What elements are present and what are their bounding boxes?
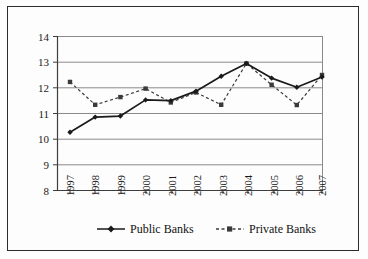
y-tick-label: 14 [38,31,50,43]
y-tick-label: 9 [44,159,50,171]
square-marker-icon [227,226,232,231]
data-point-marker [68,80,72,84]
x-tick-label: 2003 [218,175,229,196]
gridlines [57,37,323,165]
y-tick-label: 13 [38,56,50,68]
y-tick-label: 8 [44,185,50,197]
x-tick-label: 2006 [294,175,305,196]
data-point-marker [294,85,299,90]
series-public-banks [67,61,324,135]
line-chart: 14 13 12 11 10 9 8 [0,0,368,259]
data-point-marker [295,103,299,107]
x-axis-labels: 1997 1998 1999 2000 2001 2002 2003 2004 … [65,174,328,196]
legend-item-private-banks: Private Banks [216,222,316,236]
data-point-marker [143,86,147,90]
x-tick-label: 1998 [90,175,101,196]
legend-label-public-banks: Public Banks [130,222,194,236]
chart-legend: Public Banks Private Banks [97,222,316,236]
series-private-banks [68,61,324,107]
legend-item-public-banks: Public Banks [97,222,194,236]
x-tick-label: 2002 [192,175,203,196]
x-tick-label: 2004 [243,174,254,196]
series-line [70,63,322,132]
data-point-marker [93,103,97,107]
x-tick-label: 2000 [141,175,152,196]
data-point-marker [269,83,273,87]
x-tick-label: 2001 [167,175,178,196]
data-point-marker [118,95,122,99]
diamond-marker-icon [108,226,115,233]
x-tick-label: 1999 [116,175,127,196]
x-tick-label: 2007 [317,175,328,196]
y-tick-marks [53,37,57,191]
legend-label-private-banks: Private Banks [249,222,316,236]
data-point-marker [219,103,223,107]
y-tick-label: 12 [38,82,49,94]
x-tick-label: 2005 [269,175,280,196]
series-line [70,63,322,105]
figure-container: 14 13 12 11 10 9 8 [0,0,368,259]
y-tick-label: 10 [38,133,50,145]
y-tick-label: 11 [38,108,49,120]
x-tick-label: 1997 [65,175,76,196]
y-axis-labels: 14 13 12 11 10 9 8 [38,31,50,197]
